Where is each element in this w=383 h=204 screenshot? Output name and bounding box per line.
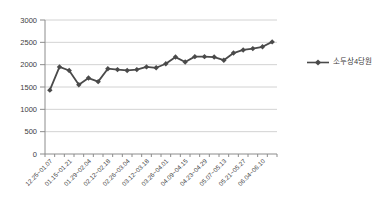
data-point-marker xyxy=(211,54,216,59)
series-line xyxy=(50,42,272,90)
y-tick-label: 500 xyxy=(24,127,37,136)
legend-line-marker-icon xyxy=(307,58,329,67)
y-tick-label: 3000 xyxy=(20,16,37,25)
data-point-marker xyxy=(115,67,120,72)
data-point-marker xyxy=(153,65,158,70)
data-point-marker xyxy=(47,87,52,92)
legend-diamond-icon xyxy=(315,59,321,65)
data-point-marker xyxy=(240,47,245,52)
data-point-marker xyxy=(250,46,255,51)
data-point-marker xyxy=(134,67,139,72)
legend-label: 소두상4당원 xyxy=(333,58,372,66)
y-tick-label: 2500 xyxy=(20,38,37,47)
y-tick-label: 2000 xyxy=(20,60,37,69)
data-point-marker xyxy=(202,54,207,59)
chart-container: 05001000150020002500300012.25~01.0701.15… xyxy=(0,0,383,204)
line-chart: 05001000150020002500300012.25~01.0701.15… xyxy=(0,0,383,204)
y-tick-label: 1500 xyxy=(20,83,37,92)
y-tick-label: 1000 xyxy=(20,105,37,114)
data-point-marker xyxy=(124,68,129,73)
y-tick-label: 0 xyxy=(33,150,37,159)
legend: 소두상4당원 xyxy=(307,56,372,68)
